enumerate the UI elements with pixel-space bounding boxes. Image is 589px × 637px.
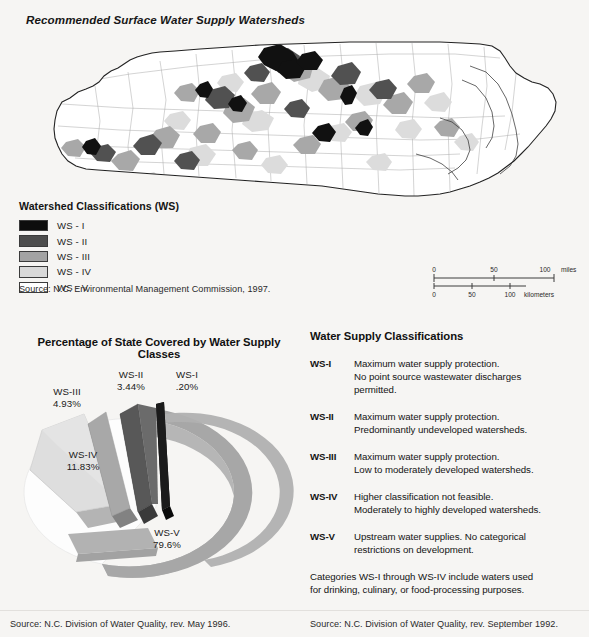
classification-desc-ws2: Maximum water supply protection. Predomi… bbox=[354, 410, 589, 436]
legend-swatch-ws1 bbox=[19, 220, 48, 232]
classification-code-ws3: WS-III bbox=[310, 450, 354, 476]
legend-row-ws1: WS - I bbox=[19, 218, 179, 233]
legend-label-ws2: WS - II bbox=[57, 236, 87, 247]
pie-label-ws3-name: WS-III bbox=[53, 386, 81, 397]
pie-label-ws4-pct: 11.83% bbox=[67, 461, 100, 472]
legend-label-ws4: WS - IV bbox=[57, 266, 91, 277]
svg-text:0: 0 bbox=[432, 266, 436, 273]
legend-swatch-ws3 bbox=[19, 251, 48, 263]
classification-row-ws3: WS-III Maximum water supply protection. … bbox=[310, 450, 589, 476]
pie-label-ws4: WS-IV 11.83% bbox=[52, 449, 114, 472]
pie-source: Source: N.C. Division of Water Quality, … bbox=[10, 619, 230, 629]
pie-label-ws2-pct: 3.44% bbox=[117, 381, 145, 392]
pie-label-ws3: WS-III 4.93% bbox=[38, 386, 96, 409]
map-source: Source: N.C. Environmental Management Co… bbox=[19, 284, 270, 294]
legend-swatch-ws2 bbox=[19, 235, 48, 247]
svg-text:100: 100 bbox=[539, 266, 550, 273]
classification-desc-ws1: Maximum water supply protection. No poin… bbox=[354, 357, 589, 397]
legend-row-ws4: WS - IV bbox=[19, 264, 179, 279]
classifications-title: Water Supply Classifications bbox=[310, 330, 589, 342]
pie-label-ws1-name: WS-I bbox=[176, 369, 198, 380]
svg-text:0: 0 bbox=[432, 291, 436, 298]
svg-text:miles: miles bbox=[561, 266, 577, 273]
pie-chart-panel: Percentage of State Covered by Water Sup… bbox=[0, 330, 305, 605]
classification-desc-ws4: Higher classification not feasible. Mode… bbox=[354, 490, 589, 516]
classification-code-ws2: WS-II bbox=[310, 410, 354, 436]
classification-code-ws4: WS-IV bbox=[310, 490, 354, 516]
legend-title: Watershed Classifications (WS) bbox=[19, 200, 179, 212]
svg-text:50: 50 bbox=[490, 266, 498, 273]
classification-row-ws2: WS-II Maximum water supply protection. P… bbox=[310, 410, 589, 436]
pie-label-ws5-pct: 79.6% bbox=[153, 539, 181, 550]
legend-row-ws3: WS - III bbox=[19, 249, 179, 264]
svg-text:50: 50 bbox=[468, 291, 476, 298]
pie-label-ws1: WS-I .20% bbox=[163, 369, 211, 392]
classification-code-ws1: WS-I bbox=[310, 357, 354, 397]
classification-row-ws4: WS-IV Higher classification not feasible… bbox=[310, 490, 589, 516]
svg-text:100: 100 bbox=[504, 291, 515, 298]
scalebar-graphic: 0 50 100 miles 0 50 100 kilometers bbox=[428, 264, 578, 298]
classifications-source: Source: N.C. Division of Water Quality, … bbox=[310, 619, 558, 629]
classifications-panel: Water Supply Classifications WS-I Maximu… bbox=[310, 330, 589, 597]
classification-desc-ws5: Upstream water supplies. No categorical … bbox=[354, 530, 589, 556]
legend-row-ws2: WS - II bbox=[19, 233, 179, 248]
classification-row-ws5: WS-V Upstream water supplies. No categor… bbox=[310, 530, 589, 556]
page-root: Recommended Surface Water Supply Watersh… bbox=[0, 0, 589, 637]
pie-label-ws2: WS-II 3.44% bbox=[104, 369, 158, 392]
map-legend: Watershed Classifications (WS) WS - I WS… bbox=[19, 200, 179, 295]
pie-label-ws5-name: WS-V bbox=[154, 527, 180, 538]
classification-code-ws5: WS-V bbox=[310, 530, 354, 556]
classification-desc-ws3: Maximum water supply protection. Low to … bbox=[354, 450, 589, 476]
pie-label-ws4-name: WS-IV bbox=[69, 449, 97, 460]
map-scalebar: 0 50 100 miles 0 50 100 kilometers bbox=[428, 264, 578, 298]
pie-label-ws5: WS-V 79.6% bbox=[136, 527, 198, 550]
legend-swatch-ws4 bbox=[19, 266, 48, 278]
pie-label-ws3-pct: 4.93% bbox=[53, 398, 81, 409]
svg-text:kilometers: kilometers bbox=[524, 291, 555, 298]
pie-label-ws1-pct: .20% bbox=[176, 381, 198, 392]
map-title: Recommended Surface Water Supply Watersh… bbox=[26, 13, 305, 26]
watershed-map: Watershed Classifications (WS) WS - I WS… bbox=[0, 26, 589, 256]
classification-row-ws1: WS-I Maximum water supply protection. No… bbox=[310, 357, 589, 397]
classifications-note: Categories WS-I through WS-IV include wa… bbox=[310, 570, 589, 597]
legend-label-ws1: WS - I bbox=[57, 220, 85, 231]
footer-divider bbox=[0, 610, 589, 611]
legend-label-ws3: WS - III bbox=[57, 251, 90, 262]
pie-label-ws2-name: WS-II bbox=[119, 369, 144, 380]
